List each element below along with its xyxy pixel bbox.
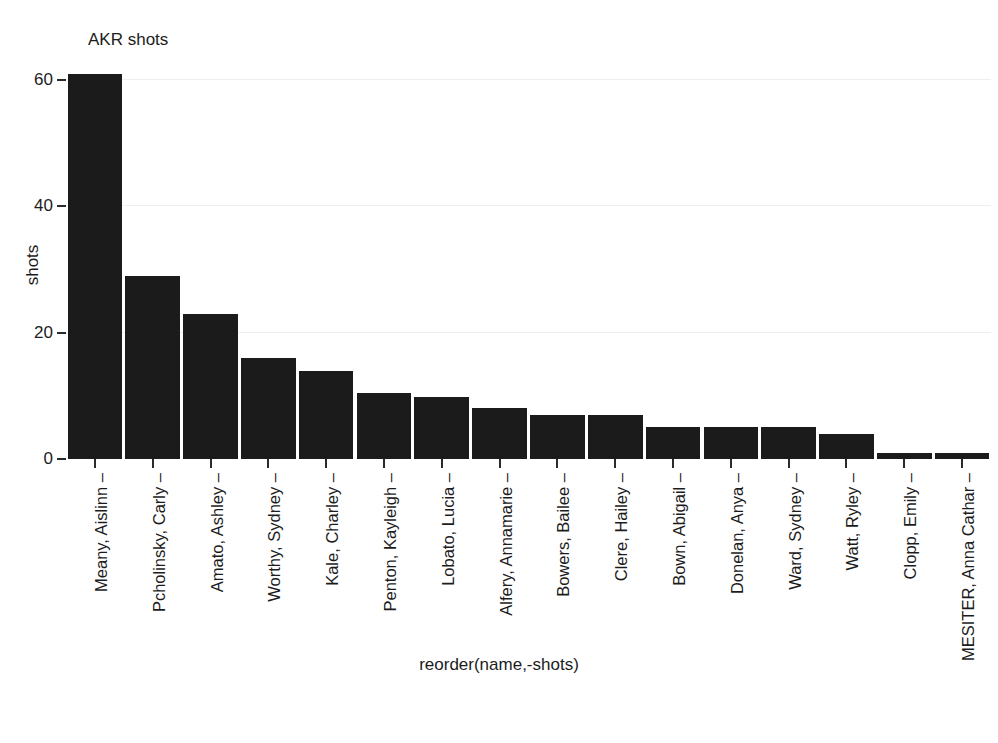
y-axis-tick-label: 0 <box>44 449 53 469</box>
x-axis-tick-label-text: Alfery, Annamarie – <box>496 473 515 616</box>
y-axis-tick <box>57 458 66 460</box>
x-axis-tick <box>788 459 790 468</box>
x-axis-tick <box>499 459 501 468</box>
bar-chart: AKR shots shots 0204060 Meany, Aislinn –… <box>0 0 998 743</box>
x-axis-tick-label-text: Worthy, Sydney – <box>265 473 284 602</box>
gridline <box>66 205 991 206</box>
gridline <box>66 79 991 80</box>
x-axis-tick-label-text: Bown, Abigail – <box>670 473 689 586</box>
x-axis-tick-label: Clere, Hailey – <box>621 365 640 473</box>
x-axis-tick-label: MESITER, Anna Cathar – <box>968 285 987 473</box>
x-axis-tick-label: Ward, Sydney – <box>795 356 814 473</box>
x-axis-tick <box>152 459 154 468</box>
x-axis-tick-label: Meany, Aislinn – <box>101 354 120 473</box>
x-axis-tick <box>325 459 327 468</box>
x-axis-tick-label-text: Lobato, Lucia – <box>438 473 457 586</box>
x-axis-tick-label: Amato, Ashley – <box>217 354 236 473</box>
x-axis-tick-label: Worthy, Sydney – <box>274 344 293 473</box>
x-axis-tick-label-text: Bowers, Bailee – <box>554 473 573 597</box>
x-axis-tick <box>441 459 443 468</box>
y-axis-tick <box>57 332 66 334</box>
x-axis-tick-label: Alfery, Annamarie – <box>506 330 525 473</box>
x-axis-tick-label-text: Meany, Aislinn – <box>91 473 110 592</box>
x-axis-tick-label-text: MESITER, Anna Cathar – <box>959 473 978 661</box>
x-axis-tick-label: Lobato, Lucia – <box>448 360 467 473</box>
x-axis-tick-label-text: Pcholinsky, Carly – <box>149 473 168 612</box>
x-axis-tick-label-text: Clopp, Emily – <box>901 473 920 579</box>
x-axis-tick-label-text: Ward, Sydney – <box>785 473 804 590</box>
x-axis-tick <box>94 459 96 468</box>
y-axis-tick <box>57 205 66 207</box>
y-axis-tick-label: 60 <box>34 70 53 90</box>
x-axis-tick <box>730 459 732 468</box>
x-axis-tick-label: Bown, Abigail – <box>679 360 698 473</box>
x-axis-tick-label: Clopp, Emily – <box>910 367 929 473</box>
x-axis-tick-label-text: Donelan, Anya – <box>727 473 746 594</box>
x-axis-tick-label: Bowers, Bailee – <box>563 349 582 473</box>
x-axis-tick-label-text: Amato, Ashley – <box>207 473 226 592</box>
x-axis-tick-label: Donelan, Anya – <box>737 352 756 473</box>
x-axis-tick <box>267 459 269 468</box>
y-axis-tick-label: 20 <box>34 323 53 343</box>
x-axis-title: reorder(name,-shots) <box>0 655 998 675</box>
x-axis-tick-label: Penton, Kayleigh – <box>390 334 409 473</box>
x-axis-tick <box>903 459 905 468</box>
x-axis-tick-label-text: Kale, Charley – <box>323 473 342 586</box>
x-axis-tick <box>845 459 847 468</box>
x-axis-tick <box>961 459 963 468</box>
chart-title: AKR shots <box>88 30 168 49</box>
x-axis-tick <box>556 459 558 468</box>
x-axis-tick-label: Kale, Charley – <box>332 360 351 473</box>
y-axis: 0204060 <box>0 62 66 460</box>
x-axis-tick-label: Watt, Ryley – <box>852 376 871 474</box>
x-axis-tick <box>383 459 385 468</box>
x-axis-tick <box>210 459 212 468</box>
y-axis-tick-label: 40 <box>34 196 53 216</box>
x-axis-tick <box>672 459 674 468</box>
x-axis-tick <box>614 459 616 468</box>
x-axis-tick-label-text: Penton, Kayleigh – <box>380 473 399 612</box>
x-axis-tick-label: Pcholinsky, Carly – <box>159 334 178 473</box>
x-axis-tick-label-text: Clere, Hailey – <box>612 473 631 581</box>
x-axis-tick-label-text: Watt, Ryley – <box>843 473 862 571</box>
y-axis-tick <box>57 79 66 81</box>
